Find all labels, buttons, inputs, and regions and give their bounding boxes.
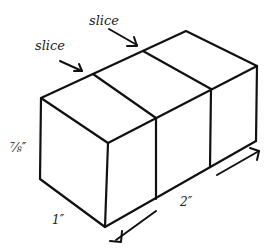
slice-label-left: slice [35, 38, 65, 53]
top-front-edge [108, 66, 257, 143]
top-back-edge [41, 31, 257, 98]
front-left-face [40, 98, 108, 227]
slice-arrow-right [109, 29, 137, 46]
bottom-front-edge [105, 141, 256, 227]
back-right-edge [256, 66, 257, 141]
depth-label: 1″ [52, 213, 65, 227]
block-outline [40, 31, 257, 227]
slice-arrow-left [60, 61, 82, 71]
slice-label-right: slice [89, 13, 119, 28]
height-label: ⅞″ [10, 141, 27, 155]
slice-line-2-top [143, 51, 211, 89]
length-label: 2″ [179, 195, 193, 209]
sliced-block-diagram: slice slice ⅞″ 1″ 2″ [0, 0, 275, 252]
slice-line-1-top [93, 74, 156, 118]
slice-line-2-front [210, 89, 211, 167]
